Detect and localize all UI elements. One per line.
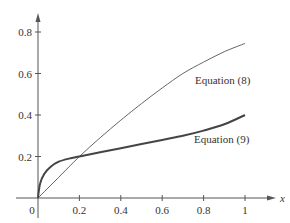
x-tick-label: 1 [242,204,248,216]
x-axis-label: x [279,192,285,204]
x-axis-arrow-icon [267,196,276,201]
equation-9-curve [38,115,245,198]
equation-8-label: Equation (8) [195,74,251,87]
equation-8-curve [38,43,245,198]
x-tick-label: 0.6 [155,204,169,216]
y-tick-label: 0.6 [18,68,32,80]
y-tick-label: 0.4 [18,109,32,121]
equation-9-label: Equation (9) [194,133,250,146]
x-tick-label: 0.2 [73,204,87,216]
origin-label: 0 [29,204,35,216]
y-axis-arrow-icon [36,13,41,22]
y-tick-label: 0.2 [18,151,32,163]
chart: 0 0.2 0.4 0.6 0.8 1 x 0.2 0.4 0.6 0.8 Eq… [0,0,290,223]
x-tick-label: 0.4 [114,204,128,216]
y-tick-label: 0.8 [18,26,32,38]
x-tick-label: 0.8 [197,204,211,216]
